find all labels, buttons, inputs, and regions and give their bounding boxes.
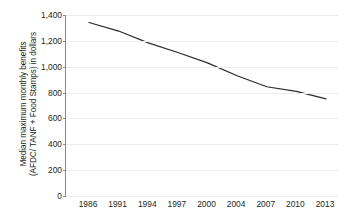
x-axis-tick-label: 2010	[286, 199, 305, 209]
y-axis-tick-mark	[63, 144, 66, 145]
line-chart: Median maximum monthly benefits (AFDC/ T…	[0, 0, 345, 220]
y-axis-tick-label: 200	[18, 166, 62, 174]
gridline	[66, 170, 338, 171]
x-axis-tick-label: 1991	[108, 199, 127, 209]
y-axis-tick-mark	[63, 67, 66, 68]
x-axis-tick-label: 2007	[256, 199, 275, 209]
gridline	[66, 15, 338, 16]
gridline	[66, 144, 338, 145]
data-series-line	[89, 23, 326, 99]
y-axis-tick-mark	[63, 196, 66, 197]
x-axis-tick-label: 1994	[138, 199, 157, 209]
gridline	[66, 41, 338, 42]
gridline	[66, 93, 338, 94]
y-axis-tick-label: 400	[18, 140, 62, 148]
y-axis-tick-label: 1,200	[18, 37, 62, 45]
y-axis-tick-mark	[63, 93, 66, 94]
x-axis-tick-label: 2000	[197, 199, 216, 209]
y-axis-tick-mark	[63, 15, 66, 16]
gridline	[66, 196, 338, 197]
y-axis-tick-label: 1,400	[18, 11, 62, 19]
data-line-svg	[66, 15, 338, 196]
y-axis-tick-mark	[63, 170, 66, 171]
plot-area	[65, 15, 338, 197]
y-axis-tick-label: 1,000	[18, 63, 62, 71]
gridline	[66, 118, 338, 119]
y-axis-tick-mark	[63, 41, 66, 42]
x-axis-tick-labels: 198619911994199720002004200720102013	[65, 199, 337, 213]
x-axis-tick-label: 1997	[168, 199, 187, 209]
x-axis-tick-label: 2013	[316, 199, 335, 209]
y-axis-tick-mark	[63, 118, 66, 119]
y-axis-tick-labels: 02004006008001,0001,2001,400	[18, 15, 62, 196]
y-axis-tick-label: 0	[18, 192, 62, 200]
x-axis-tick-label: 2004	[227, 199, 246, 209]
y-axis-tick-label: 800	[18, 88, 62, 96]
x-axis-tick-label: 1986	[79, 199, 98, 209]
gridline	[66, 67, 338, 68]
y-axis-tick-label: 600	[18, 114, 62, 122]
